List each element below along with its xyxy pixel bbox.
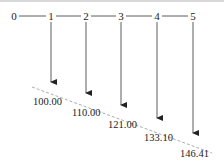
cash-flow-diagram: 012345 100.00110.00121.00133.10146.41	[0, 0, 224, 167]
period-label-2: 2	[83, 10, 89, 22]
flow-value-label: 110.00	[72, 107, 101, 118]
value-labels: 100.00110.00121.00133.10146.41	[33, 96, 209, 159]
period-label-4: 4	[154, 10, 160, 22]
flow-value-label: 100.00	[33, 96, 62, 107]
period-label-3: 3	[118, 10, 124, 22]
period-label-1: 1	[48, 10, 54, 22]
flow-value-label: 146.41	[180, 148, 209, 159]
flow-value-label: 133.10	[144, 132, 173, 143]
period-label-0: 0	[11, 10, 17, 22]
period-label-5: 5	[190, 10, 196, 22]
flow-value-label: 121.00	[108, 119, 137, 130]
